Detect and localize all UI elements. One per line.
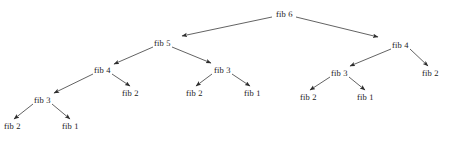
tree-edge — [349, 77, 365, 90]
tree-node-n6: fib 2 — [422, 68, 439, 78]
tree-edge — [182, 17, 272, 36]
tree-node-n7: fib 3 — [34, 95, 51, 105]
tree-node-n0: fib 6 — [276, 9, 293, 19]
tree-edge — [114, 47, 153, 64]
tree-edge — [310, 77, 330, 90]
tree-node-n11: fib 2 — [300, 92, 317, 102]
tree-node-n10: fib 1 — [244, 88, 261, 98]
recursion-tree-diagram: fib 6fib 5fib 4fib 4fib 3fib 3fib 2fib 3… — [0, 0, 449, 142]
tree-edge — [54, 74, 93, 93]
tree-edge — [296, 17, 378, 37]
tree-edge — [52, 104, 70, 119]
tree-node-n1: fib 5 — [154, 38, 171, 48]
tree-edge — [112, 74, 130, 86]
tree-node-n5: fib 3 — [331, 68, 348, 78]
tree-node-n3: fib 4 — [94, 65, 111, 75]
tree-edge — [14, 104, 33, 119]
tree-node-n12: fib 1 — [357, 92, 374, 102]
tree-edge — [350, 49, 391, 66]
tree-edge — [232, 74, 250, 86]
tree-node-n8: fib 2 — [122, 88, 139, 98]
tree-edge — [172, 47, 211, 63]
tree-node-n9: fib 2 — [186, 88, 203, 98]
tree-edge — [196, 74, 212, 86]
tree-node-n4: fib 3 — [214, 65, 231, 75]
tree-node-n2: fib 4 — [392, 40, 409, 50]
tree-edge — [410, 49, 428, 66]
tree-node-n13: fib 2 — [4, 121, 21, 131]
tree-node-n14: fib 1 — [62, 121, 79, 131]
